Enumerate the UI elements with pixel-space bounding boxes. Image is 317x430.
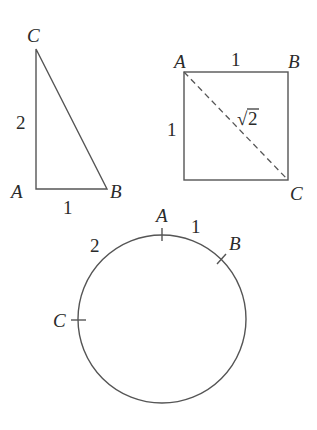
square-vertex-b: B	[288, 51, 300, 72]
square-vertex-c: C	[290, 183, 303, 204]
triangle-shape	[36, 49, 107, 189]
square-diagonal-length: 2	[248, 108, 258, 129]
geometry-diagram: C A B 2 1 A B C 1 1 √ 2 A B C 1 2	[0, 0, 317, 430]
circle-point-a: A	[154, 205, 168, 226]
square-diagonal	[184, 72, 288, 180]
circle-arc-ab-length: 1	[191, 216, 201, 237]
unit-square: A B C 1 1 √ 2	[167, 49, 303, 204]
circle-figure: A B C 1 2	[53, 205, 246, 403]
triangle-vertex-a: A	[9, 181, 23, 202]
circle-point-b: B	[229, 233, 241, 254]
circle-point-c: C	[53, 310, 66, 331]
square-diagonal-sqrt-sign: √	[237, 108, 248, 129]
triangle-vertex-b: B	[110, 181, 122, 202]
square-vertex-a: A	[172, 51, 186, 72]
triangle-side-ac-length: 2	[16, 112, 26, 133]
triangle-side-ab-length: 1	[63, 197, 73, 218]
triangle-vertex-c: C	[27, 25, 40, 46]
square-left-length: 1	[167, 119, 177, 140]
square-top-length: 1	[231, 49, 241, 70]
right-triangle: C A B 2 1	[9, 25, 122, 218]
circle-arc-ca-length: 2	[90, 235, 100, 256]
